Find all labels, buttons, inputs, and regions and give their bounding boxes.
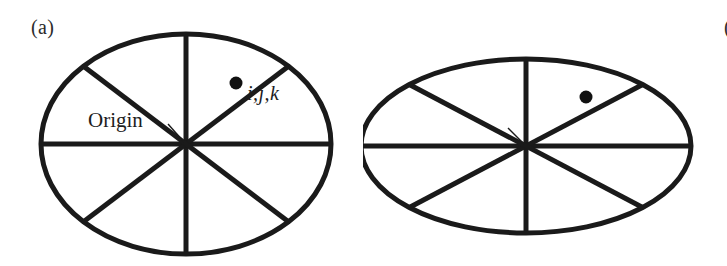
- spoke-group-b: [363, 59, 691, 233]
- panel-b: (b) Origin′ i′,j′,k′: [363, 0, 727, 266]
- panel-a-diagram: [0, 0, 364, 266]
- point-label-a: i,j,k: [247, 82, 280, 105]
- panel-caption-a: (a): [31, 16, 54, 39]
- panel-b-diagram: [363, 0, 727, 266]
- panel-a: (a) Origin i,j,k: [0, 0, 364, 266]
- origin-label-a: Origin: [88, 108, 143, 133]
- figure-container: (a) Origin i,j,k (b) Origin′ i′,j′,k′: [0, 0, 727, 266]
- point-marker-b: [580, 91, 593, 104]
- point-marker-a: [230, 77, 243, 90]
- spoke-group-a: [41, 34, 331, 254]
